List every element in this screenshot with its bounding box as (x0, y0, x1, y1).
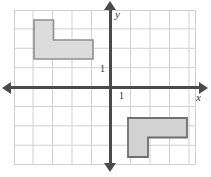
y-axis-down-arrow-icon (104, 163, 116, 172)
y-axis-label: y (115, 9, 120, 20)
x-axis-left-arrow-icon (2, 82, 11, 94)
x-axis-line (8, 86, 202, 89)
x-axis-label: x (196, 92, 201, 103)
upper-left-L-polygon (33, 19, 95, 61)
x-axis-unit-tick-label: 1 (119, 91, 124, 101)
coordinate-plane-figure: y x 1 1 (0, 0, 211, 177)
y-axis-line (109, 6, 112, 166)
y-axis-unit-tick-label: 1 (100, 64, 105, 74)
lower-right-L-polygon (127, 117, 189, 159)
